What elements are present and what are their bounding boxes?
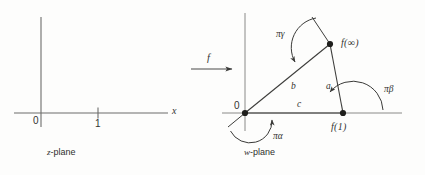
angle-beta-arc — [330, 81, 383, 110]
z-plane-axes — [14, 17, 168, 127]
w-plane-caption: w-plane — [244, 148, 275, 157]
vertex-origin-dot — [242, 110, 248, 116]
vertex-f-one-dot — [340, 110, 346, 116]
vertex-f-one-label: f(1) — [331, 122, 347, 132]
angle-beta-label: πβ — [384, 85, 394, 95]
extension-ray-origin — [228, 113, 245, 127]
angle-alpha-label: πα — [273, 132, 283, 142]
angle-gamma-arc — [291, 18, 316, 62]
z-plane-caption-suffix: -plane — [51, 147, 76, 157]
extension-ray-apex — [312, 17, 330, 44]
angle-gamma-label: πγ — [276, 30, 285, 40]
w-plane-caption-suffix: -plane — [250, 147, 275, 157]
triangle-side-a — [330, 44, 343, 113]
z-plane-caption: z-plane — [47, 148, 76, 157]
angle-arcs — [231, 18, 384, 143]
triangle-side-c-label: c — [297, 100, 301, 110]
angle-alpha-arc — [231, 120, 273, 143]
z-plane-origin-label: 0 — [33, 116, 39, 126]
triangle-side-a-label: a — [326, 82, 331, 92]
w-plane-triangle — [245, 44, 343, 113]
vertex-f-infinity-label: f(∞) — [341, 38, 359, 48]
vertex-f-infinity-dot — [327, 41, 333, 47]
triangle-side-b-label: b — [291, 82, 296, 92]
z-plane-x-axis-label: x — [172, 106, 176, 116]
triangle-side-b — [245, 44, 330, 113]
triangle-vertices — [242, 41, 346, 116]
figure-root: 0 1 x z-plane f 0 f(∞) f(1) b a c πα πβ … — [0, 0, 425, 175]
map-arrow-label: f — [207, 53, 210, 64]
z-plane-tick-label: 1 — [95, 119, 101, 129]
w-plane-origin-label: 0 — [234, 101, 240, 111]
